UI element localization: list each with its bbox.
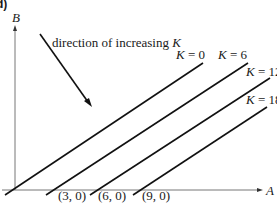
iso-label-k0: K = 0 [175,47,205,62]
iso-label-k18: K = 18 [245,92,277,107]
intercept-label-6: (6, 0) [98,188,126,203]
iso-line-k18 [133,107,267,195]
y-axis-arrowhead-icon [13,25,17,31]
iso-line-k12 [90,78,270,195]
diagram-canvas: d) B A direction of increasing K K = 0 K… [0,0,277,203]
direction-annotation: direction of increasing K [52,35,182,50]
x-axis-arrowhead-icon [257,188,263,192]
iso-line-k0 [5,63,203,195]
intercept-label-9: (9, 0) [142,188,170,203]
iso-line-k6 [46,63,248,195]
iso-label-k12: K = 12 [245,64,277,79]
iso-label-k6: K = 6 [217,47,248,62]
x-axis-label: A [265,183,274,198]
intercept-label-3: (3, 0) [58,188,86,203]
panel-label: d) [0,0,7,11]
y-axis-label: B [12,10,20,25]
